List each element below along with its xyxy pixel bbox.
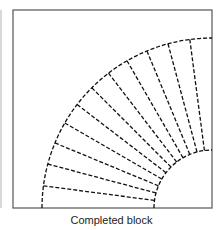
- seam-line: [65, 123, 162, 179]
- block-frame: [13, 10, 212, 208]
- seam-line: [127, 61, 183, 158]
- caption: Completed block: [0, 214, 223, 226]
- seam-line: [109, 73, 177, 162]
- seam-line: [92, 88, 171, 167]
- completed-block-diagram: [0, 0, 223, 230]
- seam-line: [77, 105, 166, 173]
- inner-arc: [154, 150, 212, 208]
